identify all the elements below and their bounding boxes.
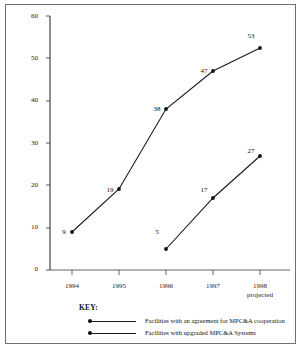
legend-label-upgraded: Facilities with upgraded MPC&A Systems (145, 329, 256, 337)
legend-swatch-agreement-icon (88, 317, 136, 325)
series-line-agreement (72, 48, 260, 232)
y-axis-ticks (46, 16, 50, 270)
x-axis-ticks (72, 270, 260, 275)
legend-item-agreement: Facilities with an agreement for MPC&A c… (88, 316, 285, 326)
key-title: KEY: (79, 303, 98, 312)
series-line-upgraded (166, 156, 260, 249)
legend-label-agreement: Facilities with an agreement for MPC&A c… (145, 317, 285, 325)
chart-page: 60 50 40 30 20 10 0 1994 1995 1996 1997 … (0, 0, 302, 353)
series-markers-agreement (70, 46, 262, 234)
legend-item-upgraded: Facilities with upgraded MPC&A Systems (88, 328, 256, 338)
legend-swatch-upgraded-icon (88, 329, 136, 337)
plot-area (0, 0, 302, 353)
series-markers-upgraded (164, 154, 262, 251)
